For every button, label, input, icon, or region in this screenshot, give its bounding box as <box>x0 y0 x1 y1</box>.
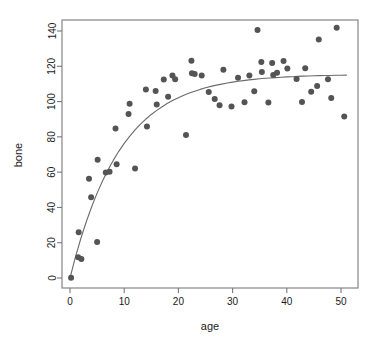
scatter-plot-figure: 01020304050 020406080100120140 age bone <box>0 0 375 337</box>
data-point <box>154 102 160 108</box>
y-tick-label: 20 <box>47 237 58 249</box>
data-point <box>265 99 271 105</box>
data-point <box>76 229 82 235</box>
y-tick-label: 80 <box>47 131 58 143</box>
x-axis-title: age <box>201 320 219 332</box>
data-point <box>188 58 194 64</box>
data-point <box>107 169 113 175</box>
data-point <box>127 101 133 107</box>
data-point <box>78 256 84 262</box>
data-point <box>229 104 235 110</box>
y-tick-label: 100 <box>47 93 58 110</box>
data-point <box>126 111 132 117</box>
data-point <box>281 58 287 64</box>
data-point <box>165 94 171 100</box>
data-point <box>316 36 322 42</box>
data-point <box>94 239 100 245</box>
y-tick-label: 40 <box>47 201 58 213</box>
data-point <box>341 113 347 119</box>
y-axis-title: bone <box>12 143 24 167</box>
data-point <box>334 25 340 31</box>
plot-canvas: 01020304050 020406080100120140 age bone <box>0 0 375 337</box>
data-point <box>143 87 149 93</box>
x-tick-label: 50 <box>335 296 347 307</box>
data-point <box>325 76 331 82</box>
data-point <box>172 76 178 82</box>
data-point <box>308 89 314 95</box>
x-tick-label: 40 <box>281 296 293 307</box>
y-tick-label: 120 <box>47 58 58 75</box>
data-point <box>302 65 308 71</box>
data-point <box>183 132 189 138</box>
data-point <box>246 72 252 78</box>
x-tick-label: 10 <box>119 296 131 307</box>
data-point <box>95 157 101 163</box>
data-point <box>153 88 159 94</box>
data-point <box>212 96 218 102</box>
data-point <box>192 71 198 77</box>
data-point <box>299 99 305 105</box>
data-point <box>242 99 248 105</box>
x-tick-label: 0 <box>67 296 73 307</box>
data-point <box>114 161 120 167</box>
data-point <box>328 95 334 101</box>
data-point <box>269 60 275 66</box>
data-point <box>255 27 261 33</box>
data-point <box>86 176 92 182</box>
data-point <box>199 72 205 78</box>
data-point <box>258 59 264 65</box>
data-point <box>251 88 257 94</box>
data-point <box>274 70 280 76</box>
y-tick-label: 140 <box>47 22 58 39</box>
data-point <box>220 67 226 73</box>
data-point <box>235 75 241 81</box>
data-point <box>161 77 167 83</box>
data-point <box>132 165 138 171</box>
data-point <box>206 89 212 95</box>
data-point <box>88 194 94 200</box>
data-point <box>294 76 300 82</box>
data-point <box>68 275 74 281</box>
data-point <box>113 125 119 131</box>
y-tick-label: 60 <box>47 166 58 178</box>
y-tick-label: 0 <box>47 275 58 281</box>
data-point <box>259 69 265 75</box>
data-point <box>284 65 290 71</box>
x-tick-label: 30 <box>227 296 239 307</box>
x-tick-label: 20 <box>173 296 185 307</box>
data-point <box>144 124 150 130</box>
data-point <box>217 102 223 108</box>
data-point <box>314 83 320 89</box>
